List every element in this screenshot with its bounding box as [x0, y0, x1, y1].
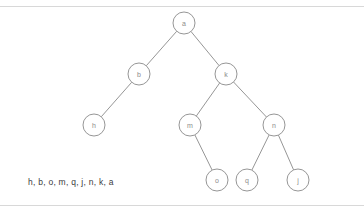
- tree-node-label-k: k: [224, 71, 228, 78]
- tree-edge-layer: [101, 31, 293, 170]
- tree-edge-m-o: [195, 135, 212, 170]
- tree-edge-k-n: [234, 82, 267, 117]
- tree-node-o: o: [206, 169, 228, 191]
- tree-node-k: k: [215, 63, 237, 85]
- tree-edge-k-m: [196, 83, 219, 116]
- tree-node-layer: abkhmnoqj: [83, 12, 309, 191]
- tree-node-q: q: [236, 169, 258, 191]
- tree-node-n: n: [263, 114, 285, 136]
- tree-edge-a-b: [146, 31, 176, 66]
- tree-node-label-m: m: [187, 122, 193, 129]
- tree-edge-n-j: [278, 135, 293, 170]
- tree-node-m: m: [179, 114, 201, 136]
- tree-node-a: a: [173, 12, 195, 34]
- tree-node-label-n: n: [272, 122, 276, 129]
- tree-node-label-q: q: [245, 177, 249, 185]
- tree-edge-b-h: [101, 82, 131, 117]
- tree-node-label-j: j: [296, 177, 299, 185]
- panel-bottom-divider: [0, 205, 364, 206]
- tree-edge-n-q: [252, 135, 269, 170]
- tree-node-b: b: [128, 63, 150, 85]
- tree-node-label-a: a: [182, 20, 186, 27]
- traversal-order-caption: h, b, o, m, q, j, n, k, a: [28, 177, 114, 187]
- tree-node-j: j: [287, 169, 309, 191]
- tree-edge-a-k: [191, 31, 219, 65]
- tree-node-label-o: o: [215, 177, 219, 184]
- binary-tree-figure-panel: abkhmnoqj h, b, o, m, q, j, n, k, a: [0, 0, 364, 213]
- tree-node-h: h: [83, 114, 105, 136]
- tree-node-label-h: h: [92, 122, 96, 129]
- tree-node-label-b: b: [137, 71, 141, 78]
